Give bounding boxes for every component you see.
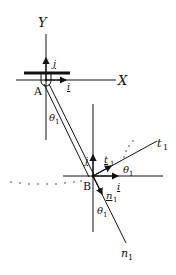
svg-text:1: 1: [163, 143, 168, 152]
svg-text:1: 1: [129, 170, 133, 178]
j-label-b: j: [83, 155, 88, 166]
j-label-a: j: [51, 58, 56, 69]
svg-text:1: 1: [110, 160, 114, 168]
x-axis-label: X: [117, 73, 128, 88]
svg-text:1: 1: [55, 118, 59, 126]
t-label-b: t 1: [104, 154, 114, 168]
t-vector-b: [93, 166, 111, 176]
i-label-b: i: [117, 181, 120, 192]
svg-text:t: t: [157, 137, 162, 150]
rod-edge-left: [44, 84, 89, 177]
n-label-text: n: [106, 190, 112, 201]
i-label-a: i: [67, 81, 70, 92]
n-vector-b: [93, 176, 102, 194]
svg-text:1: 1: [128, 253, 133, 262]
normal-line-label: n 1: [121, 247, 133, 262]
angle-label-n: θ 1: [97, 205, 107, 219]
tangent-line-label: t 1: [157, 137, 168, 152]
angle-label-a: θ 1: [49, 112, 59, 126]
point-a-label: A: [33, 85, 43, 98]
y-axis-label: Y: [38, 15, 48, 30]
svg-text:1: 1: [113, 196, 117, 204]
svg-text:t: t: [104, 154, 109, 165]
trajectory-dots: [10, 140, 133, 184]
n-label-b: n 1: [106, 190, 117, 204]
svg-text:1: 1: [103, 211, 107, 219]
point-b-label: B: [83, 180, 91, 193]
pendulum-diagram: Y X A B j i j i t 1 n 1 t 1 n 1 θ 1 θ 1 …: [0, 0, 176, 275]
